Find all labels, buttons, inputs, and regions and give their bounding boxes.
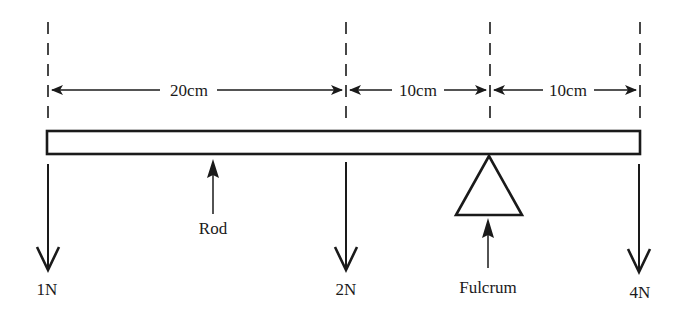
lever-diagram: 20cm 10cm 10cm 1N 2N [0,0,684,315]
force-arrow-1n [37,164,59,270]
force-label-2n: 2N [336,280,357,299]
dimension-20cm: 20cm [52,81,342,100]
force-label-4n: 4N [630,283,651,302]
force-label-1n: 1N [37,280,58,299]
dimension-label: 10cm [549,81,587,100]
force-arrow-2n [335,162,357,270]
dimension-label: 10cm [399,81,437,100]
rod-pointer-arrow [207,159,219,214]
fulcrum-label: Fulcrum [459,278,517,297]
rod [47,131,640,154]
fulcrum-triangle [456,156,522,215]
force-arrow-4n [628,164,650,272]
rod-label: Rod [199,219,228,238]
dimension-label: 20cm [170,81,208,100]
dimension-10cm-left: 10cm [350,81,486,100]
dashed-guides [48,22,640,122]
dimension-10cm-right: 10cm [494,81,636,100]
fulcrum-pointer-arrow [482,218,494,268]
